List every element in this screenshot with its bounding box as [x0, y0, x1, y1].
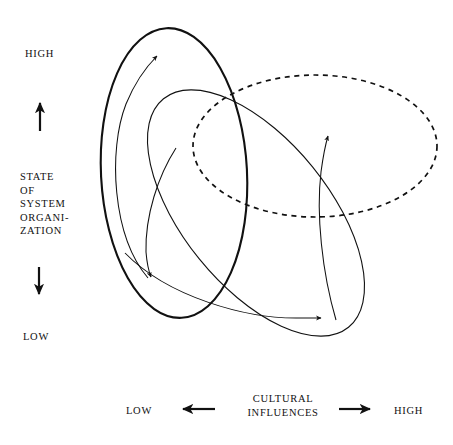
x-axis-title: CULTURAL INFLUENCES: [233, 392, 333, 420]
tilted-thin-ellipse: [107, 53, 405, 373]
y-axis-title-line-1: STATE: [20, 171, 54, 182]
y-axis-high-label: HIGH: [25, 47, 54, 60]
upward-right-flow-arrow: [319, 136, 336, 320]
y-axis-title-line-5: ZATION: [20, 225, 62, 236]
y-axis-low-label: LOW: [23, 330, 49, 343]
dashed-horizontal-ellipse: [193, 75, 437, 217]
x-axis-title-line-2: INFLUENCES: [233, 406, 333, 420]
y-axis-title: STATE OF SYSTEM ORGANI- ZATION: [20, 170, 69, 238]
x-axis-title-line-1: CULTURAL: [233, 392, 333, 406]
y-axis-title-line-4: ORGANI-: [20, 212, 69, 223]
x-axis-low-label: LOW: [126, 404, 152, 417]
x-axis-high-label: HIGH: [394, 404, 423, 417]
y-axis-title-line-3: SYSTEM: [20, 198, 66, 209]
y-axis-title-line-2: OF: [20, 185, 35, 196]
downward-left-flow-arrow: [146, 148, 176, 277]
thick-vertical-ellipse: [94, 24, 255, 321]
